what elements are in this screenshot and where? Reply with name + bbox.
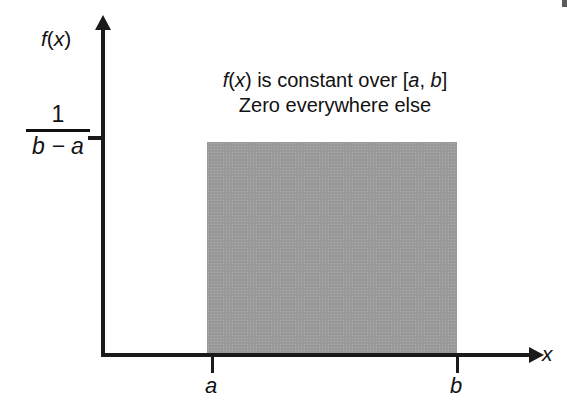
y-axis-tick-density bbox=[88, 136, 105, 140]
annotation-line-2: Zero everywhere else bbox=[180, 93, 490, 118]
x-axis-label: x bbox=[542, 343, 553, 364]
fraction-numerator: 1 bbox=[26, 103, 90, 129]
x-axis-tick-label-a: a bbox=[205, 375, 217, 397]
fraction-denominator: b − a bbox=[26, 132, 90, 158]
x-axis-tick-a bbox=[211, 356, 214, 373]
y-axis-label: f(x) bbox=[41, 28, 71, 49]
x-axis-line bbox=[101, 353, 533, 357]
x-axis-tick-b bbox=[456, 356, 459, 373]
uniform-density-region bbox=[207, 142, 457, 355]
corner-artifact bbox=[562, 0, 567, 7]
annotation-line-1: f(x) is constant over [a, b] bbox=[180, 68, 490, 93]
uniform-distribution-figure: f(x) x 1 b − a a b f(x) is constant over… bbox=[0, 0, 567, 411]
y-axis-tick-label-density: 1 b − a bbox=[26, 103, 90, 158]
y-axis-line bbox=[101, 28, 105, 357]
x-axis-tick-label-b: b bbox=[450, 375, 462, 397]
annotation-text: f(x) is constant over [a, b] Zero everyw… bbox=[180, 68, 490, 118]
y-axis-arrow-icon bbox=[95, 15, 111, 30]
